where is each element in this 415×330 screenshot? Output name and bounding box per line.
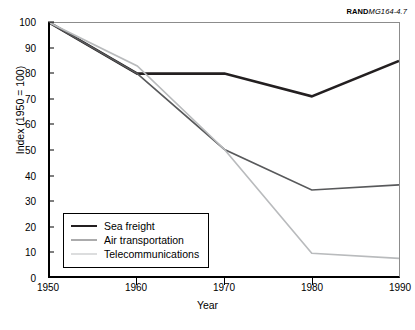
y-axis-tick-labels: 0102030405060708090100	[0, 22, 44, 278]
y-tick-mark	[48, 73, 54, 74]
y-tick-label: 100	[19, 17, 36, 28]
legend-label: Telecommunications	[104, 248, 199, 260]
y-tick-label: 30	[25, 196, 36, 207]
legend-item: Air transportation	[71, 233, 199, 247]
rand-logo-text: RAND	[347, 7, 369, 16]
y-tick-label: 0	[30, 273, 36, 284]
y-tick-label: 20	[25, 221, 36, 232]
source-credit-code: MG164-4.7	[369, 7, 407, 16]
legend-swatch	[71, 249, 97, 259]
y-tick-mark	[48, 98, 54, 99]
chart-legend: Sea freightAir transportationTelecommuni…	[63, 213, 209, 268]
y-tick-label: 10	[25, 247, 36, 258]
y-tick-label: 40	[25, 170, 36, 181]
legend-item: Telecommunications	[71, 247, 199, 261]
x-tick-label: 1950	[37, 282, 59, 293]
y-tick-label: 70	[25, 93, 36, 104]
legend-item: Sea freight	[71, 219, 199, 233]
legend-swatch	[71, 221, 97, 231]
y-tick-mark	[48, 226, 54, 227]
y-tick-mark	[48, 252, 54, 253]
y-tick-mark	[48, 124, 54, 125]
source-credit: RANDMG164-4.7	[347, 7, 408, 16]
chart-figure: RANDMG164-4.7 Index (1950 = 100) 0102030…	[0, 0, 415, 330]
x-axis-title: Year	[0, 299, 415, 311]
legend-label: Sea freight	[104, 220, 155, 232]
legend-swatch	[71, 235, 97, 245]
legend-label: Air transportation	[104, 234, 184, 246]
y-tick-mark	[48, 150, 54, 151]
y-tick-label: 80	[25, 68, 36, 79]
x-tick-label: 1990	[389, 282, 411, 293]
y-tick-label: 60	[25, 119, 36, 130]
x-tick-mark	[136, 278, 137, 285]
y-tick-mark	[48, 47, 54, 48]
y-tick-mark	[48, 201, 54, 202]
y-tick-mark	[48, 175, 54, 176]
y-tick-label: 90	[25, 42, 36, 53]
y-tick-label: 50	[25, 145, 36, 156]
series-line	[50, 23, 399, 96]
x-tick-mark	[224, 278, 225, 285]
x-tick-mark	[312, 278, 313, 285]
y-tick-mark	[48, 22, 54, 23]
